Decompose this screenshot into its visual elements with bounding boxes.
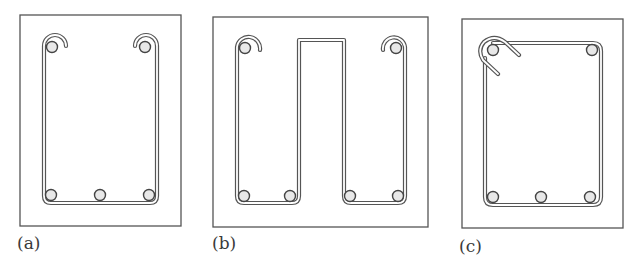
tie-c: [480, 38, 601, 205]
rebar-top-b: [240, 43, 402, 54]
panel-b: [213, 17, 428, 227]
panel-a: [20, 15, 181, 226]
stirrup-a: [44, 35, 157, 203]
panel-label-c: (c): [459, 236, 482, 256]
panel-c: [462, 19, 623, 228]
panel-label-a: (a): [17, 233, 40, 253]
rebar-top-c: [488, 45, 598, 56]
rebar-bottom-a: [46, 190, 155, 201]
diagram-canvas: [0, 0, 642, 272]
rebar-bottom-c: [488, 192, 596, 203]
stirrup-b: [237, 37, 405, 203]
rebar-bottom-b: [239, 191, 404, 202]
panel-label-b: (b): [212, 233, 236, 253]
